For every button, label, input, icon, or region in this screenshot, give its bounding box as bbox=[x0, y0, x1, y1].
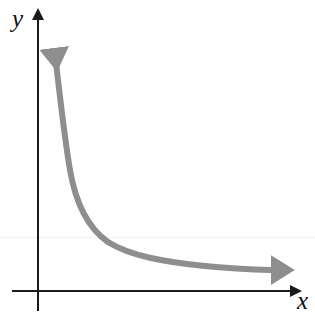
figure-container: y x bbox=[0, 0, 315, 314]
y-axis-label: y bbox=[12, 6, 23, 31]
x-axis-label: x bbox=[297, 288, 308, 313]
graph-canvas bbox=[0, 0, 315, 314]
